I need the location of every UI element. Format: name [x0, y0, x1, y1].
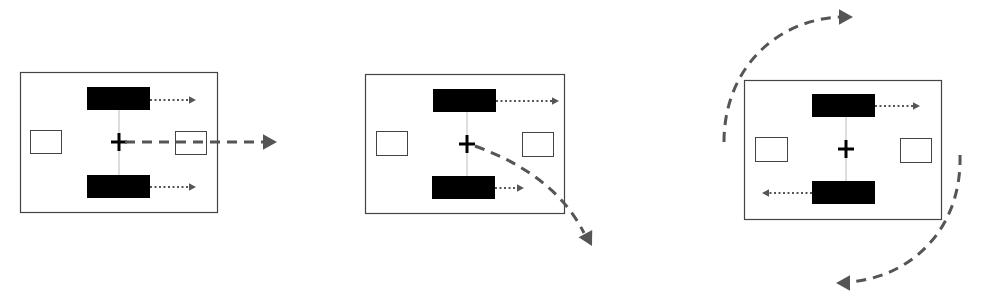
diagram-canvas: [0, 0, 984, 303]
bottom-wheel-block: [432, 176, 495, 199]
top-wheel-block: [433, 89, 496, 112]
bottom-wheel-block: [87, 175, 150, 198]
panel-curve: [366, 75, 593, 247]
top-wheel-block: [87, 87, 150, 110]
arrowhead-icon: [263, 134, 277, 149]
right-sensor-box: [523, 133, 554, 157]
right-sensor-box: [901, 139, 932, 163]
top-wheel-block: [812, 94, 875, 117]
arrowhead-icon: [836, 275, 850, 290]
panel-rotation: [724, 9, 960, 290]
left-sensor-box: [31, 131, 62, 154]
arrowhead-icon: [839, 9, 853, 24]
panel-translation: [21, 73, 278, 213]
left-sensor-box: [377, 132, 408, 156]
arrowhead-icon: [579, 230, 593, 246]
bottom-wheel-block: [812, 181, 875, 204]
left-sensor-box: [756, 138, 788, 162]
